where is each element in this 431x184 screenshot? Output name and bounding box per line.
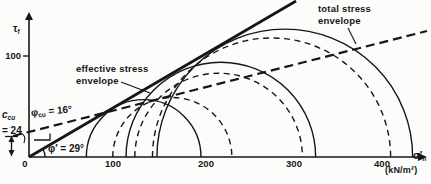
- x-axis-label: σ′n: [413, 151, 426, 163]
- y-axis-label: τf: [13, 24, 20, 36]
- total-envelope-leader: [348, 28, 356, 44]
- y-tick-100: 100: [0, 51, 21, 61]
- c-cu-arrowhead-down: [9, 150, 15, 157]
- mohr-circle-diagram: τf 100 0 100 200 300 400 σ′n (kN/m²) eff…: [0, 0, 431, 184]
- x-tick-0: 0: [11, 159, 39, 169]
- effective-stress-circle-1: [86, 100, 201, 157]
- x-axis-unit: (kN/m²): [385, 166, 417, 175]
- total-stress-circle-3: [152, 38, 390, 157]
- effective-envelope-label: effective stress envelope: [76, 63, 148, 86]
- c-cu-annotation: ccu = 24: [2, 108, 32, 137]
- x-tick-300: 300: [280, 159, 308, 169]
- phi-effective-angle-arc: [43, 149, 45, 157]
- phi-cu-angle-mark: [34, 134, 50, 141]
- y-axis-arrowhead: [25, 12, 33, 20]
- phi-effective-annotation: φ′ = 29°: [48, 144, 84, 154]
- total-envelope-label: total stress envelope: [318, 3, 371, 26]
- plot-canvas: [0, 0, 431, 184]
- x-tick-100: 100: [99, 159, 127, 169]
- effective-stress-circle-3: [157, 29, 413, 157]
- x-tick-200: 200: [192, 159, 220, 169]
- effective-stress-envelope-line: [29, 1, 296, 157]
